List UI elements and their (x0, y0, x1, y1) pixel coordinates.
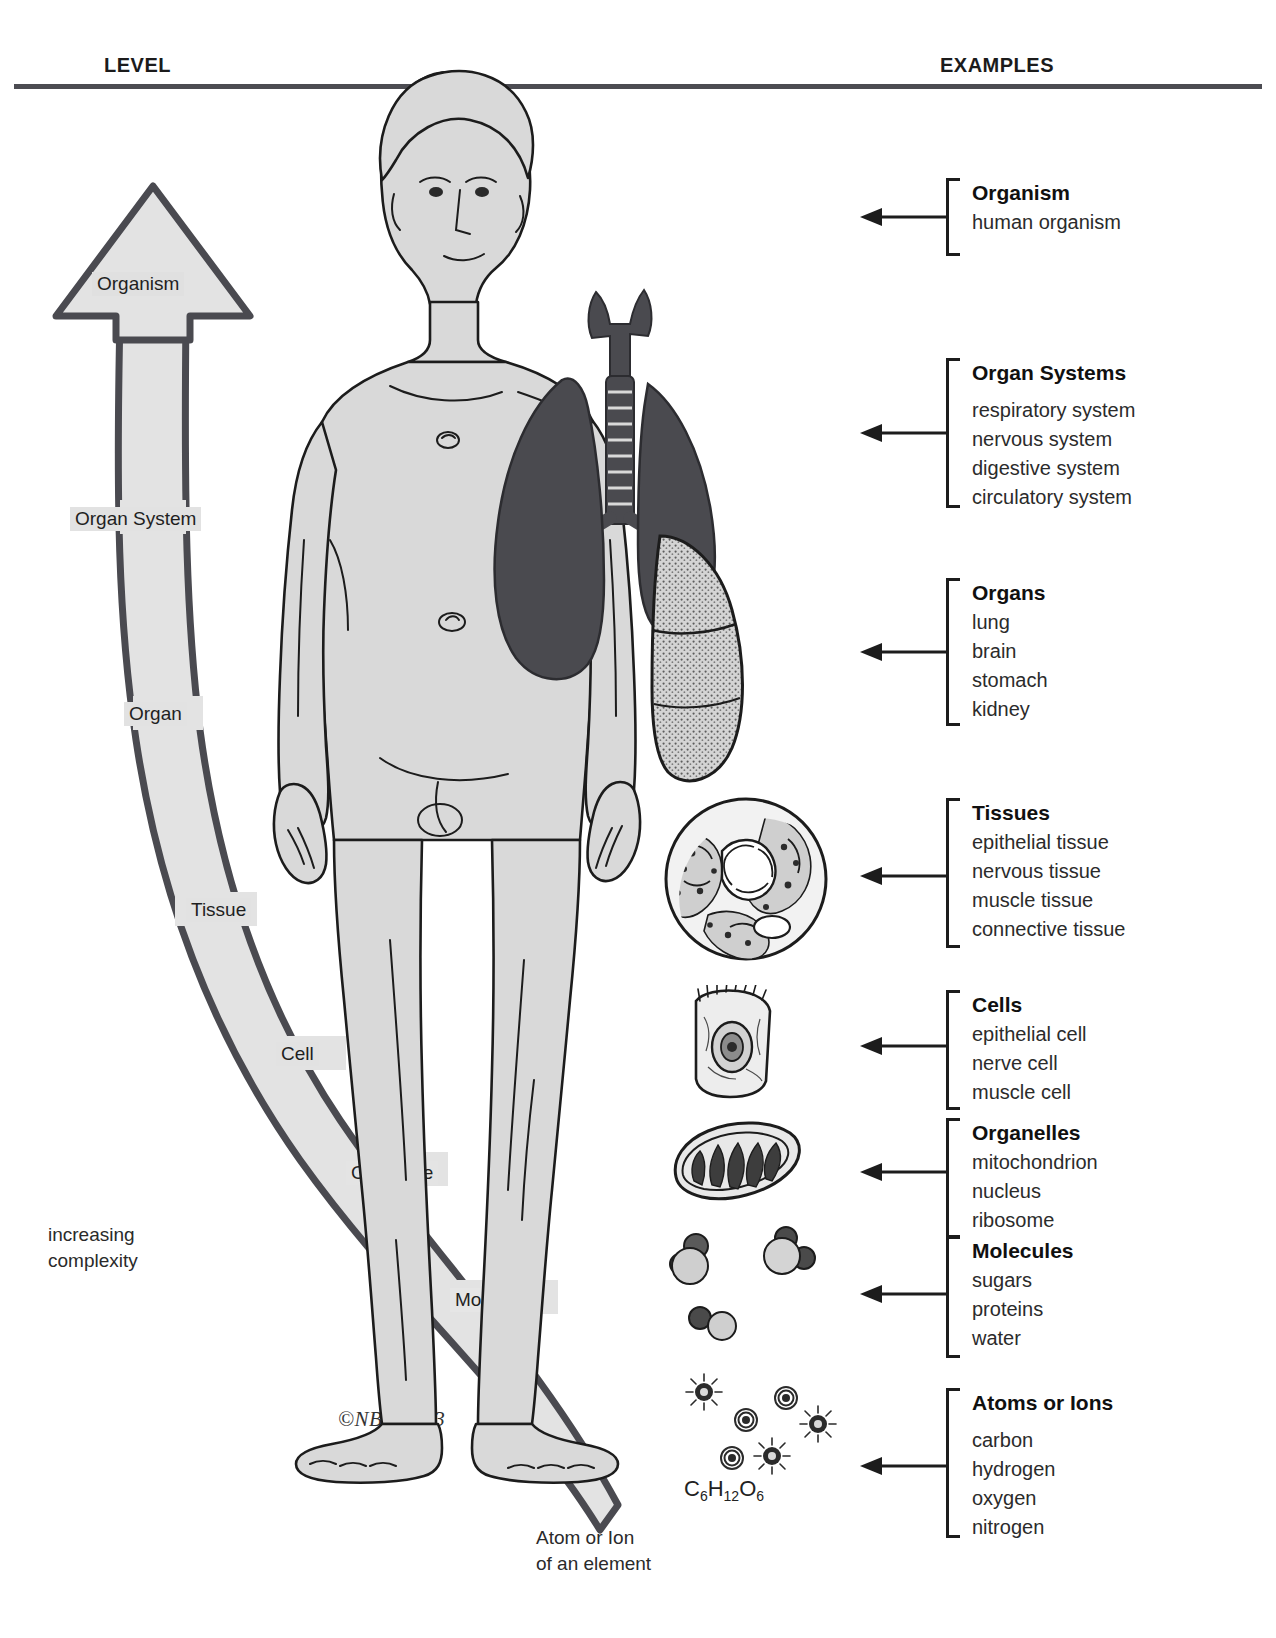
example-block-cells: Cells epithelial cell nerve cell muscle … (860, 990, 1087, 1110)
example-block-molecules: Molecules sugars proteins water (860, 1236, 1074, 1358)
example-title-atoms-or-ions: Atoms or Ions (972, 1388, 1113, 1418)
bracket-organs (946, 578, 960, 726)
examples-column-header: EXAMPLES (940, 54, 1054, 77)
bracket-molecules (946, 1236, 960, 1358)
formula-c-sub: 6 (700, 1488, 708, 1504)
formula-h: H (708, 1476, 724, 1501)
example-item: nucleus (972, 1177, 1098, 1206)
example-item: kidney (972, 695, 1048, 724)
example-item: lung (972, 608, 1048, 637)
bracket-cells (946, 990, 960, 1110)
example-item: muscle cell (972, 1078, 1087, 1107)
pointer-arrow-tissues (860, 798, 946, 948)
example-item: epithelial cell (972, 1020, 1087, 1049)
curve-label-organ: Organ (124, 702, 187, 726)
example-item: digestive system (972, 454, 1135, 483)
example-text-organelles: Organelles mitochondrion nucleus ribosom… (960, 1118, 1098, 1238)
example-text-molecules: Molecules sugars proteins water (960, 1236, 1074, 1358)
pointer-arrow-cells (860, 990, 946, 1110)
example-block-organ-systems: Organ Systems respiratory system nervous… (860, 358, 1135, 508)
example-item: stomach (972, 666, 1048, 695)
complexity-caption-line-1: increasing (48, 1222, 138, 1248)
example-title-cells: Cells (972, 990, 1087, 1020)
complexity-caption-line-2: complexity (48, 1248, 138, 1274)
glucose-formula: C6H12O6 (684, 1476, 764, 1504)
curve-label-tissue: Tissue (186, 898, 251, 922)
bracket-tissues (946, 798, 960, 948)
example-item: water (972, 1324, 1074, 1353)
example-item: nerve cell (972, 1049, 1087, 1078)
formula-o: O (739, 1476, 756, 1501)
example-title-organelles: Organelles (972, 1118, 1098, 1148)
formula-o-sub: 6 (756, 1488, 764, 1504)
example-title-organs: Organs (972, 578, 1048, 608)
bracket-organelles (946, 1118, 960, 1238)
example-item: mitochondrion (972, 1148, 1098, 1177)
example-block-organism: Organism human organism (860, 178, 1121, 256)
example-text-organs: Organs lung brain stomach kidney (960, 578, 1048, 726)
example-item: oxygen (972, 1484, 1113, 1513)
level-column-header: LEVEL (104, 54, 171, 77)
example-item: sugars (972, 1266, 1074, 1295)
atom-caption-line-1: Atom or Ion (536, 1525, 651, 1551)
pointer-arrow-organism (860, 178, 946, 256)
example-text-organism: Organism human organism (960, 178, 1121, 256)
pointer-arrow-organ-systems (860, 358, 946, 508)
example-item: nervous tissue (972, 857, 1125, 886)
pointer-arrow-molecules (860, 1236, 946, 1358)
formula-h-sub: 12 (724, 1488, 740, 1504)
bracket-organ-systems (946, 358, 960, 508)
pointer-arrow-organelles (860, 1118, 946, 1238)
example-text-organ-systems: Organ Systems respiratory system nervous… (960, 358, 1135, 508)
pointer-arrow-organs (860, 578, 946, 726)
molecule-models-illustration (660, 1222, 830, 1352)
example-item: proteins (972, 1295, 1074, 1324)
increasing-complexity-caption: increasing complexity (48, 1222, 138, 1274)
example-item: ribosome (972, 1206, 1098, 1235)
example-item: circulatory system (972, 483, 1135, 512)
example-item: carbon (972, 1426, 1113, 1455)
atoms-ions-illustration (676, 1372, 846, 1482)
atom-caption-line-2: of an element (536, 1551, 651, 1577)
example-item: nervous system (972, 425, 1135, 454)
mitochondrion-illustration (666, 1115, 806, 1210)
example-block-organelles: Organelles mitochondrion nucleus ribosom… (860, 1118, 1098, 1238)
example-text-cells: Cells epithelial cell nerve cell muscle … (960, 990, 1087, 1110)
epithelial-cell-illustration (662, 985, 802, 1100)
formula-c: C (684, 1476, 700, 1501)
atom-or-ion-caption: Atom or Ion of an element (536, 1525, 651, 1577)
bracket-atoms-or-ions (946, 1388, 960, 1538)
bracket-organism (946, 178, 960, 256)
example-item: human organism (972, 208, 1121, 237)
example-text-tissues: Tissues epithelial tissue nervous tissue… (960, 798, 1125, 948)
example-item: respiratory system (972, 396, 1135, 425)
tissue-micrograph-illustration (648, 795, 844, 963)
example-title-organism: Organism (972, 178, 1121, 208)
example-item: epithelial tissue (972, 828, 1125, 857)
example-item: nitrogen (972, 1513, 1113, 1542)
example-item: connective tissue (972, 915, 1125, 944)
example-title-tissues: Tissues (972, 798, 1125, 828)
example-text-atoms-or-ions: Atoms or Ions carbon hydrogen oxygen nit… (960, 1388, 1113, 1538)
example-item: brain (972, 637, 1048, 666)
example-block-organs: Organs lung brain stomach kidney (860, 578, 1048, 726)
pointer-arrow-atoms-or-ions (860, 1388, 946, 1538)
curve-label-organism: Organism (92, 272, 184, 296)
example-item: muscle tissue (972, 886, 1125, 915)
lungs-trachea-illustration (470, 280, 800, 800)
example-block-tissues: Tissues epithelial tissue nervous tissue… (860, 798, 1125, 948)
example-item: hydrogen (972, 1455, 1113, 1484)
example-title-organ-systems: Organ Systems (972, 358, 1135, 388)
curve-label-organ-system: Organ System (70, 507, 201, 531)
example-block-atoms-or-ions: Atoms or Ions carbon hydrogen oxygen nit… (860, 1388, 1113, 1538)
example-title-molecules: Molecules (972, 1236, 1074, 1266)
